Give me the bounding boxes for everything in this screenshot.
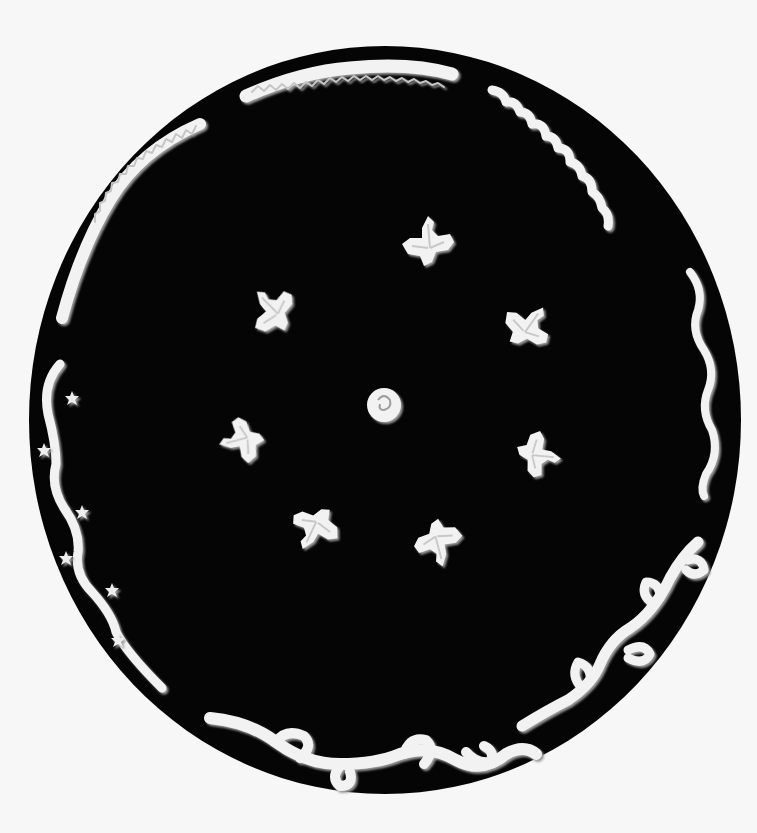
ornamented-disk-photo (0, 0, 757, 833)
central-rosette (367, 388, 401, 422)
